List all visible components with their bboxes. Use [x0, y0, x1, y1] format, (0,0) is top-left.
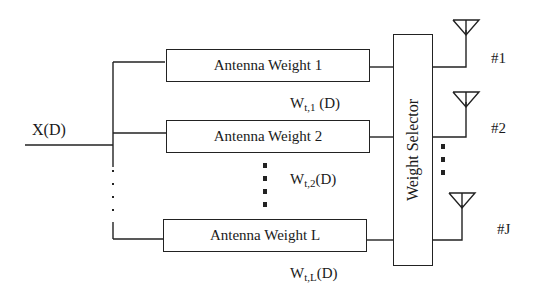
antenna-label-2: #2 [491, 121, 506, 136]
antenna-weight-label-l: Antenna Weight L [210, 227, 320, 244]
antenna-weight-label-2: Antenna Weight 2 [214, 128, 323, 145]
weight-selector-label: Weight Selector [404, 99, 422, 201]
antenna-weight-box-2: Antenna Weight 2 [166, 120, 370, 153]
antenna-weight-diagram: X(D) Antenna Weight 1 Antenna Weight 2 A… [0, 0, 539, 301]
antenna-label-j: #J [497, 222, 510, 237]
weight-symbol-l: Wt,L(D) [290, 266, 338, 283]
weight-symbol-2: Wt,2(D) [290, 172, 336, 189]
antenna-weight-label-1: Antenna Weight 1 [214, 57, 323, 74]
antenna-weight-box-l: Antenna Weight L [163, 219, 367, 252]
input-signal-label: X(D) [32, 122, 66, 138]
weight-symbol-1: Wt,1 (D) [290, 96, 340, 113]
antenna-weight-box-1: Antenna Weight 1 [166, 49, 370, 82]
weight-selector-box: Weight Selector [393, 34, 433, 266]
antenna-label-1: #1 [491, 51, 506, 66]
